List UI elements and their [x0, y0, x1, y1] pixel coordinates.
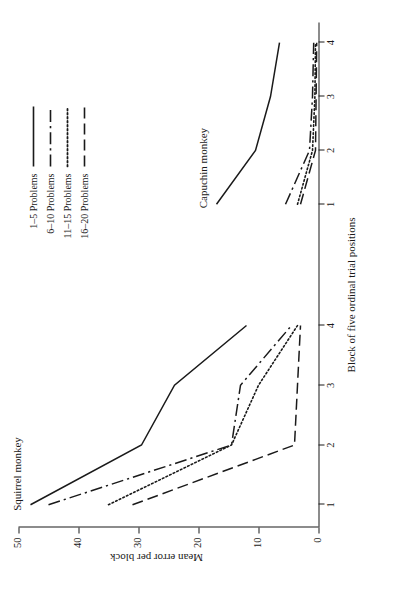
legend-label: 6–10 Problems — [44, 167, 55, 259]
series-line-squirrel-1 — [48, 325, 291, 504]
legend: 1–5 Problems6–10 Problems11–15 Problems1… — [24, 105, 92, 259]
legend-item-2: 11–15 Problems — [58, 105, 75, 259]
rotated-page-frame: 01020304050 12341234 Block of five ordin… — [0, 0, 404, 589]
figure-canvas: 01020304050 12341234 Block of five ordin… — [0, 0, 404, 589]
series-line-capuchin-2 — [297, 42, 315, 204]
legend-line-swatch — [28, 105, 38, 167]
legend-label: 11–15 Problems — [61, 167, 72, 259]
legend-line-swatch — [79, 105, 89, 167]
legend-line-swatch — [62, 105, 72, 167]
legend-line-swatch — [45, 105, 55, 167]
legend-label: 16–20 Problems — [78, 167, 89, 259]
series-line-capuchin-1 — [285, 42, 313, 204]
series-line-squirrel-3 — [132, 325, 300, 504]
series-line-squirrel-0 — [30, 325, 246, 504]
legend-item-1: 6–10 Problems — [41, 105, 58, 259]
series-line-capuchin-0 — [216, 42, 279, 204]
legend-label: 1–5 Problems — [27, 167, 38, 259]
data-series-lines — [0, 0, 404, 589]
legend-item-3: 16–20 Problems — [75, 105, 92, 259]
legend-item-0: 1–5 Problems — [24, 105, 41, 259]
